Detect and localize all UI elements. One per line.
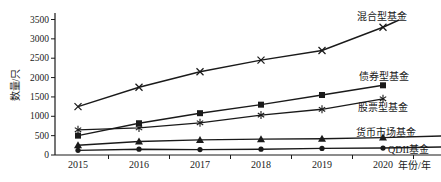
series-label: QDII基金	[388, 143, 429, 155]
circle-marker	[197, 147, 202, 152]
x-tick-label: 2018	[251, 159, 271, 170]
square-marker	[258, 102, 264, 108]
y-tick-label: 0	[44, 150, 49, 160]
square-marker	[319, 92, 325, 98]
series-line-triangle	[78, 138, 383, 146]
series-label: 货币市场基金	[356, 126, 416, 138]
series-line-x	[78, 27, 383, 106]
x-axis-title: 年份/年	[398, 157, 431, 172]
y-axis-title: 数量/只	[7, 69, 22, 102]
square-marker	[197, 110, 203, 116]
square-marker	[380, 82, 386, 88]
x-tick-label: 2016	[129, 159, 149, 170]
y-tick-label: 1500	[30, 92, 49, 102]
x-tick-label: 2019	[312, 159, 332, 170]
y-tick-label: 2500	[30, 53, 49, 63]
series-line-circle	[78, 148, 383, 150]
series-line-asterisk	[78, 99, 383, 130]
y-tick-label: 3000	[30, 34, 49, 44]
circle-marker	[136, 147, 141, 152]
chart-canvas: 0500100015002000250030003500201520162017…	[0, 0, 441, 182]
x-tick-label: 2020	[373, 159, 393, 170]
y-tick-label: 1000	[30, 111, 49, 121]
y-tick-label: 3500	[30, 15, 49, 25]
y-tick-label: 2000	[30, 73, 49, 83]
series-label: 股票型基金	[358, 101, 408, 113]
circle-marker	[380, 145, 385, 150]
y-tick-label: 500	[35, 131, 50, 141]
circle-marker	[258, 147, 263, 152]
circle-marker	[319, 146, 324, 151]
circle-marker	[75, 148, 80, 153]
series-label: 债券型基金	[359, 70, 409, 82]
fund-count-line-chart: 0500100015002000250030003500201520162017…	[0, 0, 441, 182]
x-tick-label: 2015	[68, 159, 88, 170]
series-label: 混合型基金	[357, 10, 407, 22]
x-tick-label: 2017	[190, 159, 210, 170]
